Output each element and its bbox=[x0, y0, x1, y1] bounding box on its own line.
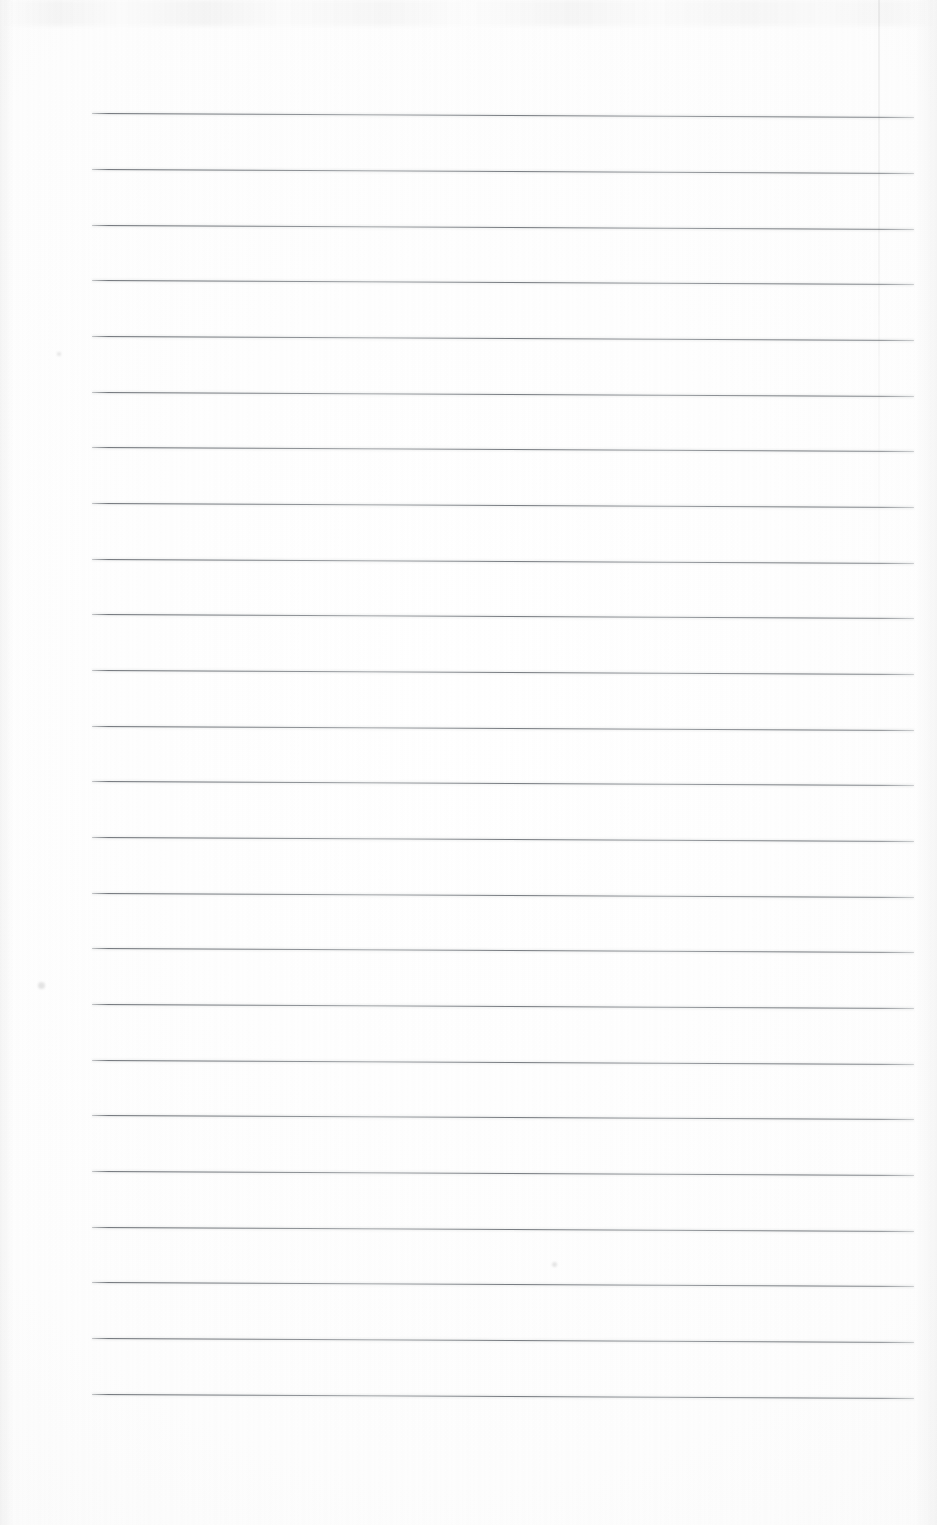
rule-line bbox=[92, 1227, 914, 1232]
rule-line bbox=[92, 113, 914, 118]
rule-line bbox=[92, 447, 914, 452]
rule-line bbox=[92, 559, 914, 564]
rule-line bbox=[92, 1060, 914, 1065]
rule-line bbox=[92, 1338, 914, 1343]
rule-line bbox=[92, 280, 914, 285]
rule-line bbox=[92, 1115, 914, 1120]
ruled-lines bbox=[0, 0, 937, 1525]
rule-line bbox=[92, 336, 914, 341]
rule-line bbox=[92, 1004, 914, 1009]
rule-line bbox=[92, 726, 914, 731]
rule-line bbox=[92, 225, 914, 230]
rule-line bbox=[92, 781, 914, 786]
rule-line bbox=[92, 837, 914, 842]
rule-line bbox=[92, 1171, 914, 1176]
rule-line bbox=[92, 670, 914, 675]
rule-line bbox=[92, 1394, 914, 1399]
rule-line bbox=[92, 1282, 914, 1287]
rule-line bbox=[92, 503, 914, 508]
rule-line bbox=[92, 614, 914, 619]
rule-line bbox=[92, 893, 914, 898]
rule-line bbox=[92, 392, 914, 397]
rule-line bbox=[92, 948, 914, 953]
scanned-page bbox=[0, 0, 937, 1525]
rule-line bbox=[92, 169, 914, 174]
